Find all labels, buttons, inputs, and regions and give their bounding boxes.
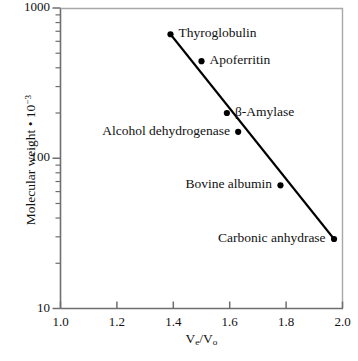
data-point-label: β-Amylase: [235, 104, 294, 120]
x-tick-label: 1.2: [92, 314, 142, 330]
data-point: [331, 236, 337, 242]
chart-axes: [61, 8, 344, 309]
data-point: [235, 129, 241, 135]
gel-filtration-calibration-chart: 1010010001.01.21.41.61.82.0 Thyroglobuli…: [0, 0, 358, 361]
data-point-label: Alcohol dehydrogenase: [102, 123, 230, 139]
x-tick-label: 1.8: [261, 314, 311, 330]
chart-ticks: [53, 8, 343, 309]
y-tick-label: 1000: [0, 0, 50, 15]
data-point-label: Carbonic anhydrase: [218, 230, 326, 246]
data-point: [224, 110, 230, 116]
x-tick-label: 1.0: [36, 314, 86, 330]
x-tick-label: 1.4: [148, 314, 198, 330]
x-axis-title: Ve/Vo: [162, 331, 242, 347]
x-tick-label: 2.0: [318, 314, 358, 330]
data-point-label: Apoferritin: [210, 52, 271, 68]
data-point: [277, 182, 283, 188]
data-point: [198, 58, 204, 64]
chart-canvas: [0, 0, 358, 361]
data-point-label: Bovine albumin: [185, 176, 272, 192]
y-axis-title: Molecular weight • 10−3: [23, 67, 39, 253]
data-point: [167, 31, 173, 37]
x-tick-label: 1.6: [205, 314, 255, 330]
data-point-label: Thyroglobulin: [178, 25, 256, 41]
